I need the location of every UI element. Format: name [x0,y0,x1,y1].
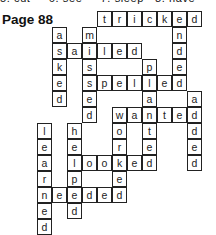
crossword-cell: e [37,139,52,155]
crossword-cell: d [82,107,97,123]
crossword-cell: p [142,59,157,75]
crossword-cell: s [52,43,67,59]
crossword-cell: a [37,155,52,171]
crossword-cell: n [142,107,157,123]
crossword-cell: p [67,171,82,187]
crossword-cell: e [112,75,127,91]
crossword-cell: d [142,155,157,171]
crossword-cell: d [67,203,82,219]
crossword-cell: l [97,43,112,59]
crossword-cell: r [37,171,52,187]
crossword-cell: e [172,59,187,75]
crossword-cell: m [82,27,97,43]
crossword-cell: d [52,91,67,107]
crossword-cell: r [112,11,127,27]
crossword-cell: k [112,155,127,171]
crossword-cell: p [97,75,112,91]
crossword-cell: w [112,107,127,123]
crossword-cell: d [127,43,142,59]
crossword-cell: a [52,27,67,43]
crossword-cell: d [112,187,127,203]
crossword-cell: e [187,139,202,155]
crossword-cell: d [37,219,52,235]
crossword-grid: trickedamnsaileddkspeespelleddeaadwanted… [0,0,216,235]
crossword-cell: s [82,59,97,75]
crossword-cell: h [67,123,82,139]
crossword-cell: o [112,123,127,139]
crossword-cell: d [187,107,202,123]
crossword-cell: i [82,43,97,59]
crossword-cell: n [172,27,187,43]
crossword-cell: a [187,91,202,107]
crossword-cell: l [37,123,52,139]
crossword-cell: e [127,155,142,171]
crossword-cell: e [82,91,97,107]
crossword-cell: e [97,187,112,203]
crossword-cell: e [67,187,82,203]
crossword-cell: e [112,43,127,59]
crossword-cell: c [142,11,157,27]
crossword-cell: e [157,75,172,91]
crossword-cell: d [187,123,202,139]
crossword-cell: e [112,171,127,187]
crossword-cell: e [52,75,67,91]
crossword-cell: t [142,123,157,139]
crossword-cell: o [97,155,112,171]
crossword-cell: k [157,11,172,27]
crossword-cell: r [112,139,127,155]
crossword-cell: i [127,11,142,27]
crossword-cell: d [187,155,202,171]
crossword-cell: l [67,155,82,171]
crossword-cell: o [82,155,97,171]
crossword-cell: l [142,75,157,91]
crossword-cell: l [127,75,142,91]
crossword-cell: t [157,107,172,123]
crossword-cell: d [82,187,97,203]
crossword-cell: a [67,43,82,59]
crossword-cell: a [127,107,142,123]
crossword-cell: e [67,139,82,155]
crossword-cell: n [37,187,52,203]
crossword-cell: e [172,107,187,123]
crossword-cell: e [37,203,52,219]
crossword-cell: d [187,11,202,27]
crossword-cell: s [82,75,97,91]
crossword-cell: d [172,75,187,91]
crossword-cell: e [172,11,187,27]
crossword-cell: a [142,91,157,107]
crossword-cell: k [52,59,67,75]
crossword-cell: e [52,187,67,203]
crossword-cell: e [142,139,157,155]
crossword-cell: t [97,11,112,27]
crossword-cell: d [172,43,187,59]
